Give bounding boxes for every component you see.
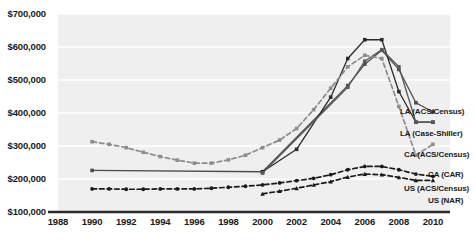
data-point-marker [244, 184, 248, 188]
data-point-marker [363, 59, 367, 63]
data-point-marker [397, 90, 401, 94]
data-point-marker [431, 120, 435, 124]
chart-canvas [0, 0, 475, 240]
data-point-marker [107, 187, 111, 191]
data-point-marker [90, 169, 94, 173]
data-point-marker [346, 57, 350, 61]
series-label-la-case-shiller: LA (Case-Shiller) [400, 129, 462, 138]
data-point-marker [90, 187, 94, 191]
data-point-marker [397, 65, 401, 69]
data-point-marker [312, 108, 316, 112]
data-point-marker [158, 187, 162, 191]
data-point-marker [261, 146, 265, 150]
data-point-marker [346, 168, 350, 172]
data-point-marker [363, 38, 367, 42]
data-point-marker [312, 176, 316, 180]
data-point-marker [158, 155, 162, 159]
data-point-marker [380, 38, 384, 42]
data-point-marker [414, 101, 418, 105]
data-point-marker [329, 173, 333, 177]
data-point-marker [227, 158, 231, 162]
data-point-marker [210, 161, 214, 165]
data-point-marker [431, 143, 435, 147]
data-point-marker [261, 171, 265, 175]
data-point-marker [107, 143, 111, 147]
data-point-marker [329, 86, 333, 90]
y-tick-label: $200,000 [0, 173, 46, 184]
data-point-marker [192, 187, 196, 191]
y-tick-label: $300,000 [0, 140, 46, 151]
data-point-marker [209, 186, 213, 190]
series-label-us-nar: US (NAR) [428, 196, 463, 205]
data-point-marker [124, 146, 128, 150]
y-tick-label: $400,000 [0, 107, 46, 118]
data-point-marker [278, 138, 282, 142]
data-point-marker [414, 120, 418, 124]
data-point-marker [295, 127, 299, 131]
series-label-la-acs-census: LA (ACS/Census) [400, 107, 464, 116]
data-point-marker [363, 165, 367, 169]
series-label-us-acs-census: US (ACS/Census) [404, 184, 469, 193]
data-point-marker [346, 85, 350, 89]
series-label-ca-car: CA (CAR) [428, 170, 463, 179]
data-point-marker [141, 150, 145, 154]
data-point-marker [175, 187, 179, 191]
y-tick-label: $600,000 [0, 41, 46, 52]
data-point-marker [141, 187, 145, 191]
data-point-marker [261, 183, 265, 187]
data-point-marker [329, 95, 333, 99]
data-point-marker [227, 185, 231, 189]
data-point-marker [414, 172, 418, 176]
data-point-marker [363, 53, 367, 57]
data-point-marker [244, 153, 248, 157]
data-point-marker [295, 179, 299, 183]
series-label-ca-acs-census: CA (ACS/Census) [404, 150, 469, 159]
data-point-marker [90, 140, 94, 144]
data-point-marker [346, 65, 350, 69]
data-point-marker [193, 161, 197, 165]
data-point-marker [176, 158, 180, 162]
data-point-marker [380, 165, 384, 169]
data-point-marker [278, 181, 282, 185]
y-tick-label: $500,000 [0, 74, 46, 85]
data-point-marker [380, 48, 384, 52]
data-point-marker [380, 57, 384, 61]
chart-figure: $100,000$200,000$300,000$400,000$500,000… [0, 0, 475, 240]
data-point-marker [124, 187, 128, 191]
x-tick-label: 2010 [409, 216, 457, 227]
data-point-marker [295, 148, 299, 152]
data-point-marker [397, 168, 401, 172]
y-tick-label: $700,000 [0, 8, 46, 19]
